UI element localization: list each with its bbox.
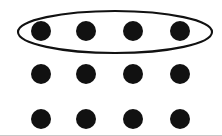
dot-r1-c1[interactable]	[31, 21, 51, 41]
dot-r3-c1[interactable]	[31, 109, 51, 129]
dot-r1-c2[interactable]	[76, 21, 96, 41]
dot-r2-c2[interactable]	[76, 64, 96, 84]
dot-r2-c3[interactable]	[123, 64, 143, 84]
dot-r2-c4[interactable]	[170, 64, 190, 84]
dot-r3-c4[interactable]	[170, 109, 190, 129]
figure-canvas	[0, 0, 222, 136]
dot-r2-c1[interactable]	[31, 64, 51, 84]
dot-r3-c3[interactable]	[123, 109, 143, 129]
dot-r3-c2[interactable]	[76, 109, 96, 129]
dot-r1-c3[interactable]	[123, 21, 143, 41]
dot-r1-c4[interactable]	[170, 21, 190, 41]
dot-array-figure: Twelve black dots arranged in three rows…	[0, 0, 222, 136]
